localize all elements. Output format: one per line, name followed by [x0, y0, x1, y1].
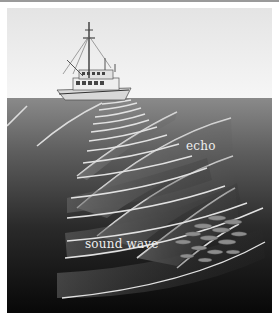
sky: [7, 8, 272, 98]
sonar-illustration: echo sound wave: [7, 8, 272, 313]
top-border: [0, 0, 279, 2]
echo-label: echo: [186, 139, 216, 153]
sound-wave-label: sound wave: [85, 237, 159, 251]
